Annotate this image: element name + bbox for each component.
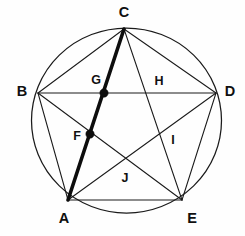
chord-AD <box>68 93 216 200</box>
chord-CE <box>124 29 182 200</box>
chord-DE <box>182 93 216 200</box>
chord-AB <box>38 93 68 200</box>
point-label-I: I <box>171 133 174 147</box>
geometry-canvas: A B C D E F G H I J <box>0 0 245 236</box>
vertex-label-E: E <box>187 210 197 226</box>
geometry-figure: A B C D E F G H I J <box>0 0 245 236</box>
vertex-label-C: C <box>119 4 130 20</box>
point-label-F: F <box>73 129 81 143</box>
highlighted-segment-CA <box>68 29 124 200</box>
vertex-label-group: A B C D E <box>17 4 235 226</box>
highlight-group <box>68 29 124 200</box>
vertex-label-D: D <box>225 83 235 99</box>
vertex-label-A: A <box>59 210 70 226</box>
point-label-group: F G H I J <box>73 73 175 185</box>
vertex-label-B: B <box>17 83 27 99</box>
marked-dot-F <box>86 130 94 138</box>
chord-BE <box>38 93 182 200</box>
point-label-H: H <box>154 74 163 88</box>
point-label-G: G <box>91 73 101 87</box>
point-label-J: J <box>122 171 129 185</box>
marked-dot-G <box>100 89 108 97</box>
